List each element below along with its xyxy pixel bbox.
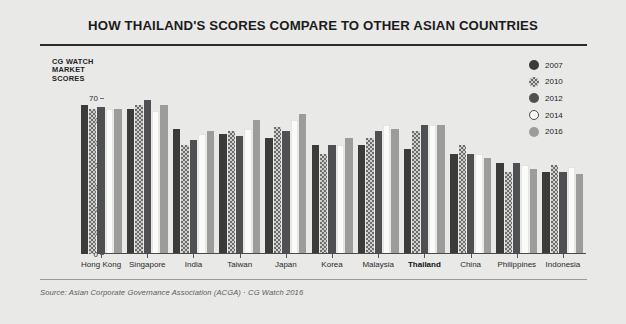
x-axis-tick-mark: [517, 254, 518, 258]
bar: [228, 131, 235, 254]
bar: [542, 172, 549, 254]
bar: [152, 111, 159, 254]
bar: [530, 169, 537, 254]
bar: [181, 145, 188, 254]
bar-group: [401, 98, 447, 254]
bar: [144, 100, 151, 254]
x-axis-tick-mark: [101, 254, 102, 258]
legend-item-label: 2010: [545, 77, 563, 86]
bar: [467, 154, 474, 254]
legend-item: 2007: [529, 57, 589, 74]
bar: [190, 140, 197, 254]
bar-groups: [78, 98, 586, 254]
x-axis-tick-mark: [424, 254, 425, 258]
bar: [576, 174, 583, 254]
source-note: Source: Asian Corporate Governance Assoc…: [40, 288, 303, 297]
y-axis-caption: CG WATCH MARKET SCORES: [52, 58, 94, 83]
bar-group: [217, 98, 263, 254]
x-axis-label: Thailand: [401, 260, 447, 269]
bar: [459, 145, 466, 254]
bar: [496, 163, 503, 254]
bar: [568, 167, 575, 254]
bar-group: [540, 98, 586, 254]
bar: [274, 127, 281, 254]
x-axis-tick-mark: [193, 254, 194, 258]
bar: [429, 125, 436, 254]
bar: [207, 131, 214, 254]
bar: [106, 109, 113, 254]
legend-swatch-icon: [529, 77, 539, 87]
x-axis-label: Korea: [309, 260, 355, 269]
y-axis-caption-line-3: SCORES: [52, 75, 94, 83]
footer-divider: [40, 279, 587, 280]
bar: [97, 107, 104, 254]
bar: [412, 131, 419, 254]
bar: [475, 154, 482, 254]
bar-group: [309, 98, 355, 254]
bar: [358, 145, 365, 254]
x-axis-tick-mark: [471, 254, 472, 258]
legend-item: 2010: [529, 74, 589, 91]
bar: [391, 129, 398, 254]
bar: [173, 129, 180, 254]
bar: [345, 138, 352, 254]
bar: [160, 105, 167, 254]
x-axis-label: Indonesia: [540, 260, 586, 269]
bar: [521, 165, 528, 254]
x-axis-tick-mark: [286, 254, 287, 258]
bar: [366, 138, 373, 254]
bar: [219, 134, 226, 254]
bar: [383, 125, 390, 254]
bar: [551, 165, 558, 254]
x-axis-label: Taiwan: [217, 260, 263, 269]
bar-group: [170, 98, 216, 254]
x-axis-tick-mark: [332, 254, 333, 258]
bar: [513, 163, 520, 254]
x-axis-label: Singapore: [124, 260, 170, 269]
page-title: HOW THAILAND'S SCORES COMPARE TO OTHER A…: [40, 18, 586, 33]
chart-page: HOW THAILAND'S SCORES COMPARE TO OTHER A…: [0, 0, 626, 324]
bar: [127, 109, 134, 254]
bar: [291, 120, 298, 254]
bar: [404, 149, 411, 254]
bar: [421, 125, 428, 254]
bar: [244, 129, 251, 254]
x-axis-label: China: [448, 260, 494, 269]
bar: [375, 131, 382, 254]
bar: [328, 145, 335, 254]
bar: [484, 158, 491, 254]
x-axis-label: Philippines: [494, 260, 540, 269]
legend-item-label: 2007: [545, 61, 563, 70]
x-axis-label: Hong Kong: [78, 260, 124, 269]
bar: [265, 138, 272, 254]
x-axis-line: [104, 253, 586, 254]
bar: [559, 172, 566, 254]
x-axis-tick-mark: [378, 254, 379, 258]
bar-group: [355, 98, 401, 254]
x-axis-tick-mark: [240, 254, 241, 258]
x-axis-label: India: [170, 260, 216, 269]
bar: [320, 154, 327, 254]
x-axis-label: Japan: [263, 260, 309, 269]
bar-group: [494, 98, 540, 254]
bar: [337, 145, 344, 254]
plot-inner: 010203040506070: [78, 98, 586, 254]
title-divider: [40, 44, 587, 46]
bar: [81, 105, 88, 254]
bar-group: [124, 98, 170, 254]
x-axis-labels: Hong KongSingaporeIndiaTaiwanJapanKoreaM…: [78, 260, 586, 269]
x-axis-tick-mark: [147, 254, 148, 258]
bar: [299, 114, 306, 254]
title-block: HOW THAILAND'S SCORES COMPARE TO OTHER A…: [40, 18, 586, 33]
bar: [282, 131, 289, 254]
bar: [505, 172, 512, 254]
bar: [253, 120, 260, 254]
bar: [198, 134, 205, 254]
bar-group: [78, 98, 124, 254]
bar: [114, 109, 121, 254]
bar-group: [263, 98, 309, 254]
bar-group: [448, 98, 494, 254]
plot-area: 010203040506070: [52, 92, 586, 254]
bar: [312, 145, 319, 254]
x-axis-tick-mark: [563, 254, 564, 258]
